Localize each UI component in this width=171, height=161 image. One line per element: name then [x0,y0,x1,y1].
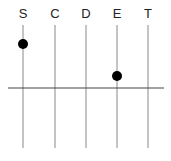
point-e [112,71,122,81]
axis-label-d: D [81,6,90,21]
axis-D: D [81,6,90,148]
axis-C: C [50,6,59,148]
parallel-axis-diagram: S C D E T [0,0,171,161]
axis-label-t: T [144,6,152,21]
axis-label-e: E [113,6,122,21]
axis-T: T [144,6,152,148]
point-s [18,39,28,49]
axis-label-s: S [19,6,28,21]
axis-label-c: C [50,6,59,21]
axis-S: S [19,6,28,148]
